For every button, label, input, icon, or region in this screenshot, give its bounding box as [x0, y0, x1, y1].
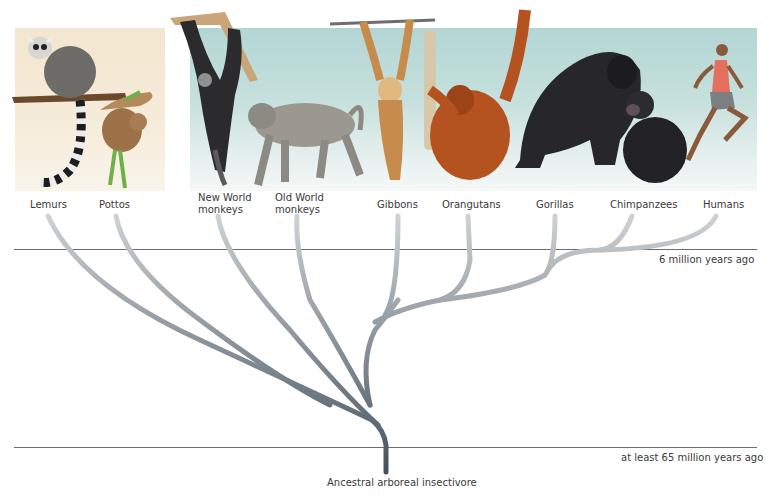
root-trunk	[372, 420, 386, 472]
phylogenetic-tree	[0, 0, 771, 498]
branch-hominins	[548, 216, 632, 270]
root-label: Ancestral arboreal insectivore	[327, 477, 477, 488]
branch-humans	[600, 216, 716, 250]
